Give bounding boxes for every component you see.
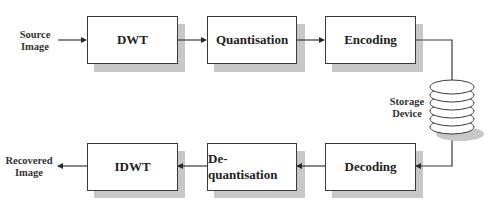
storage-device-icon [430, 80, 484, 141]
recovered-image-label: Recovered Image [2, 155, 56, 179]
quantisation-box: Quantisation [207, 16, 297, 64]
dequantisation-label: De-quantisation [208, 151, 296, 183]
idwt-label: IDWT [114, 159, 150, 175]
encoding-box: Encoding [325, 16, 416, 64]
encoding-label: Encoding [344, 32, 397, 48]
dwt-box: DWT [87, 16, 178, 64]
storage-device-label: Storage Device [385, 96, 429, 120]
dwt-label: DWT [117, 32, 148, 48]
dequantisation-box: De-quantisation [207, 143, 297, 191]
idwt-box: IDWT [87, 143, 178, 191]
decoding-label: Decoding [345, 159, 397, 175]
quantisation-label: Quantisation [216, 32, 288, 48]
source-image-label: Source Image [12, 29, 58, 53]
decoding-box: Decoding [325, 143, 416, 191]
